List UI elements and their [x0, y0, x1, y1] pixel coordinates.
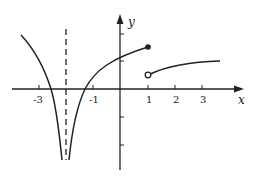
- x-tick-label: -1: [89, 94, 99, 105]
- function-graph: -3 -1 1 2 3 x y: [0, 0, 256, 179]
- x-tick-label: 2: [173, 94, 179, 105]
- middle-branch-curve: [69, 47, 148, 160]
- y-axis-label: y: [127, 15, 135, 29]
- x-tick-label: -3: [33, 94, 43, 105]
- x-axis-arrow-icon: [234, 86, 244, 93]
- x-axis-label: x: [238, 93, 245, 107]
- y-axis-arrow-icon: [117, 14, 124, 24]
- right-branch-curve: [151, 61, 221, 74]
- x-tick-label: 3: [200, 94, 206, 105]
- x-tick-label: 1: [146, 94, 152, 105]
- open-point-marker: [145, 72, 151, 78]
- closed-point-marker: [145, 44, 151, 50]
